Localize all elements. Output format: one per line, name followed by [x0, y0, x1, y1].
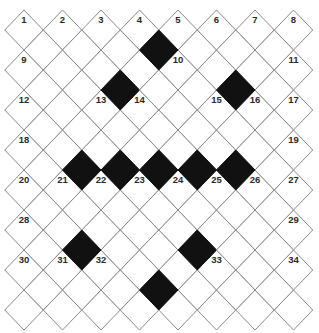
grid-cells: [5, 10, 313, 330]
crossword-grid: 1234567891011121314151617181920212223242…: [0, 0, 319, 333]
